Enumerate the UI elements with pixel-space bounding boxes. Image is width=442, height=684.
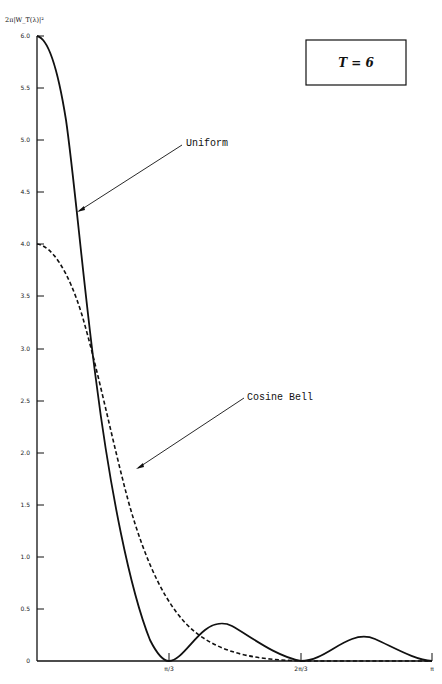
svg-text:5.0: 5.0 bbox=[20, 136, 30, 143]
x-tick-labels: π/3 2π/3 π bbox=[164, 665, 434, 672]
svg-text:1.0: 1.0 bbox=[20, 553, 30, 560]
svg-text:3.0: 3.0 bbox=[20, 345, 30, 352]
svg-text:0.5: 0.5 bbox=[20, 605, 30, 612]
cosine-bell-label: Cosine Bell bbox=[247, 392, 313, 403]
y-tick-labels: 6.0 5.5 5.0 4.5 4.0 3.5 3.0 2.5 2.0 1.5 … bbox=[20, 32, 30, 664]
svg-text:π: π bbox=[430, 665, 434, 672]
uniform-curve bbox=[37, 36, 432, 661]
svg-text:0: 0 bbox=[26, 657, 30, 664]
svg-text:5.5: 5.5 bbox=[20, 84, 30, 91]
svg-text:π/3: π/3 bbox=[164, 665, 174, 672]
cosine-bell-arrowhead-icon bbox=[136, 463, 144, 469]
uniform-arrowhead-icon bbox=[77, 206, 85, 212]
y-ticks bbox=[37, 36, 44, 609]
cosine-bell-arrow bbox=[138, 398, 244, 468]
svg-text:1.5: 1.5 bbox=[20, 501, 30, 508]
y-axis-label: 2π|W_T(λ)|² bbox=[5, 16, 44, 24]
uniform-label: Uniform bbox=[186, 138, 228, 149]
cosine-bell-curve bbox=[37, 244, 432, 661]
svg-text:2.5: 2.5 bbox=[20, 397, 30, 404]
spectral-window-chart: 2π|W_T(λ)|² 6.0 5.5 5.0 4.5 4.0 3.5 3.0 … bbox=[0, 0, 442, 684]
svg-text:4.0: 4.0 bbox=[20, 240, 30, 247]
svg-text:2π/3: 2π/3 bbox=[294, 665, 307, 672]
svg-text:6.0: 6.0 bbox=[20, 32, 30, 39]
svg-text:2.0: 2.0 bbox=[20, 449, 30, 456]
parameter-box-text: T = 6 bbox=[338, 56, 374, 70]
uniform-arrow bbox=[79, 145, 182, 211]
x-ticks bbox=[169, 653, 432, 661]
svg-text:4.5: 4.5 bbox=[20, 188, 30, 195]
svg-text:3.5: 3.5 bbox=[20, 292, 30, 299]
